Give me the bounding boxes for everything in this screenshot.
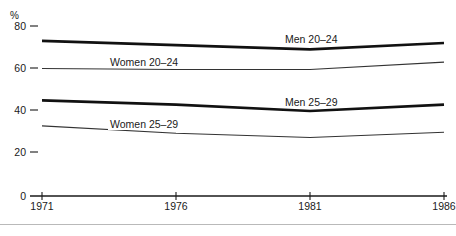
y-tick-marks	[30, 26, 38, 152]
footer-divider	[0, 224, 456, 225]
series-line-women-25-29	[42, 126, 444, 138]
x-tick-label-1986: 1986	[420, 201, 456, 212]
x-tick-label-1981: 1981	[286, 201, 334, 212]
series-line-men-20-24	[42, 41, 444, 50]
series-label-women-20-24: Women 20–24	[108, 56, 180, 68]
series-label-women-25-29: Women 25–29	[108, 118, 180, 130]
series-line-women-20-24	[42, 62, 444, 69]
x-tick-label-1976: 1976	[152, 201, 200, 212]
series-line-men-25-29	[42, 100, 444, 111]
series-label-men-25-29: Men 25–29	[283, 96, 340, 108]
chart-plot-area	[0, 0, 456, 236]
chart-container: % 80 60 40 20 0 Men 20–24 Women 20–24 Me…	[0, 0, 456, 236]
series-label-men-20-24: Men 20–24	[283, 33, 340, 45]
x-tick-label-1971: 1971	[18, 201, 66, 212]
series-lines	[42, 41, 444, 138]
